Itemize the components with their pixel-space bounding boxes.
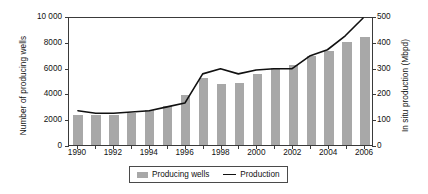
y-axis-right-tick-label: 200 xyxy=(377,90,391,98)
legend-item-producing-wells: Producing wells xyxy=(137,170,209,179)
plot-area xyxy=(68,17,373,146)
y-axis-left-tick-label: 10 000 xyxy=(37,13,62,21)
x-axis-tick-label: 1990 xyxy=(68,148,86,158)
y-axis-right-tick-label: 300 xyxy=(377,65,391,73)
y-axis-right-tick-label: 400 xyxy=(377,39,391,47)
y-axis-right-ticks: 0100200300400500 xyxy=(377,0,407,194)
y-axis-right-tick-mark xyxy=(372,17,376,18)
y-axis-right-tick-mark xyxy=(372,120,376,121)
y-axis-left-tick-mark xyxy=(65,69,69,70)
y-axis-left-tick-label: 6000 xyxy=(44,65,62,73)
y-axis-right-tick-mark xyxy=(372,94,376,95)
legend-label: Producing wells xyxy=(152,170,209,179)
line-series-production xyxy=(69,18,372,145)
y-axis-right-tick-label: 100 xyxy=(377,116,391,124)
y-axis-left-tick-label: 8000 xyxy=(44,39,62,47)
x-axis-tick-label: 1996 xyxy=(176,148,194,158)
bar-swatch-icon xyxy=(137,172,148,178)
y-axis-right-tick-mark xyxy=(372,43,376,44)
production-polyline xyxy=(78,18,363,113)
x-axis-ticks: 199019921994199619982000200220042006 xyxy=(0,148,428,162)
y-axis-right-tick-mark xyxy=(372,146,376,147)
y-axis-left-tick-mark xyxy=(65,146,69,147)
chart-legend: Producing wells Production xyxy=(129,166,288,183)
x-axis-tick-label: 1998 xyxy=(211,148,229,158)
y-axis-left-tick-mark xyxy=(65,43,69,44)
x-axis-tick-label: 2006 xyxy=(355,148,373,158)
y-axis-left-tick-label: 2000 xyxy=(44,116,62,124)
y-axis-left-tick-mark xyxy=(65,94,69,95)
x-axis-tick-label: 1994 xyxy=(140,148,158,158)
y-axis-right-tick-label: 500 xyxy=(377,13,391,21)
x-axis-tick-label: 2004 xyxy=(319,148,337,158)
chart-figure: Number of producing wells In situ produc… xyxy=(0,0,428,194)
y-axis-left-tick-mark xyxy=(65,120,69,121)
legend-label: Production xyxy=(240,170,279,179)
x-axis-tick-label: 2002 xyxy=(283,148,301,158)
x-axis-tick-label: 1992 xyxy=(104,148,122,158)
legend-item-production: Production xyxy=(223,170,279,179)
y-axis-left-ticks: 0200040006000800010 000 xyxy=(20,0,62,194)
y-axis-left-tick-mark xyxy=(65,17,69,18)
y-axis-right-tick-mark xyxy=(372,69,376,70)
y-axis-left-tick-label: 4000 xyxy=(44,90,62,98)
line-swatch-icon xyxy=(223,174,236,175)
x-axis-tick-label: 2000 xyxy=(247,148,265,158)
